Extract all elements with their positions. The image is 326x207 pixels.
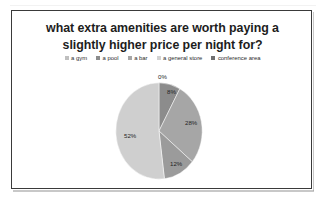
chart-container: what extra amenities are worth paying a …	[11, 10, 312, 189]
legend-swatch-icon	[157, 56, 161, 60]
slice-label-a-bar: 28%	[185, 119, 197, 126]
legend-swatch-icon	[211, 56, 215, 60]
legend-swatch-icon	[65, 56, 69, 60]
chart-title-line-1: what extra amenities are worth paying a	[12, 20, 313, 37]
legend-item-a-general-store[interactable]: a general store	[157, 54, 203, 62]
legend-label: a gym	[71, 54, 87, 62]
chart-legend: a gym a pool a bar a general store confe…	[12, 54, 313, 62]
frame-shadow-bottom	[13, 190, 314, 192]
legend-item-a-gym[interactable]: a gym	[65, 54, 88, 62]
pie-plot-area: 0% 8% 28% 12% 52%	[12, 73, 313, 185]
slice-label-a-gym: 0%	[158, 73, 167, 80]
slice-label-a-general-store: 12%	[170, 160, 182, 167]
legend-swatch-icon	[96, 56, 100, 60]
pie-chart-screenshot: what extra amenities are worth paying a …	[0, 0, 326, 207]
pie-svg	[115, 82, 203, 180]
pie-graphic	[115, 82, 203, 180]
legend-item-a-pool[interactable]: a pool	[96, 54, 119, 62]
legend-label: conference area	[218, 54, 261, 62]
chart-title: what extra amenities are worth paying a …	[12, 20, 313, 54]
slice-label-conference-area: 52%	[124, 132, 136, 139]
legend-swatch-icon	[128, 56, 132, 60]
scan-edge	[10, 5, 316, 6]
legend-item-conference-area[interactable]: conference area	[211, 54, 260, 62]
chart-title-line-2: slightly higher price per night for?	[12, 37, 313, 54]
pie-slice-conference-area[interactable]	[116, 83, 165, 179]
legend-item-a-bar[interactable]: a bar	[128, 54, 148, 62]
legend-label: a pool	[103, 54, 119, 62]
slice-label-a-pool: 8%	[167, 88, 176, 95]
legend-label: a bar	[134, 54, 147, 62]
legend-label: a general store	[163, 54, 202, 62]
